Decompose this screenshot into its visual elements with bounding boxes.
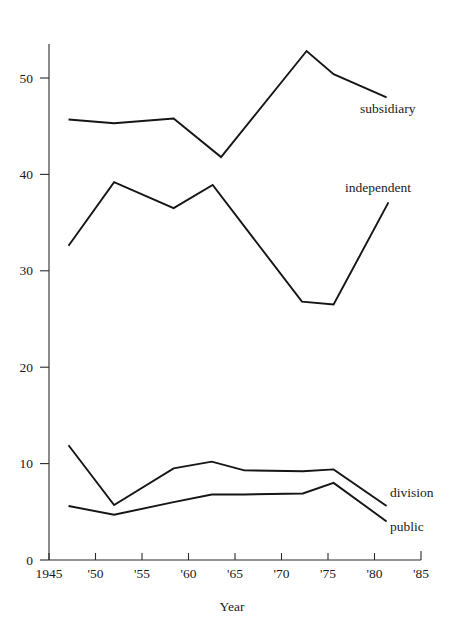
series-label-division: division <box>390 485 434 500</box>
x-tick-label-1945: 1945 <box>36 566 63 581</box>
series-label-group: subsidiaryindependentdivisionpublic <box>345 101 434 534</box>
y-tick-label-20: 20 <box>20 360 34 375</box>
x-tick-label-y60: '60 <box>181 566 197 581</box>
y-tick-label-0: 0 <box>26 553 33 568</box>
series-label-independent: independent <box>345 180 411 195</box>
y-tick-label-40: 40 <box>20 167 34 182</box>
x-tick-label-y80: '80 <box>367 566 383 581</box>
x-tick-label-y50: '50 <box>88 566 104 581</box>
series-line-division <box>69 445 387 506</box>
x-tick-label-y65: '65 <box>227 566 243 581</box>
y-tick-label-50: 50 <box>20 71 34 86</box>
y-tick-label-10: 10 <box>20 456 34 471</box>
chart-canvas: 01020304050 1945'50'55'60'65'70'75'80'85… <box>0 0 450 644</box>
series-line-public <box>69 483 387 522</box>
series-line-subsidiary <box>69 51 387 157</box>
series-group <box>69 51 389 521</box>
x-tick-label-y55: '55 <box>134 566 150 581</box>
y-tick-label-30: 30 <box>20 263 34 278</box>
series-label-public: public <box>390 519 424 534</box>
series-line-independent <box>69 182 389 304</box>
x-tick-label-y70: '70 <box>274 566 290 581</box>
x-tick-group: 1945'50'55'60'65'70'75'80'85 <box>36 551 430 581</box>
y-tick-group: 01020304050 <box>20 71 50 568</box>
series-label-subsidiary: subsidiary <box>360 101 416 116</box>
y-axis: 01020304050 <box>20 44 50 568</box>
x-axis-title: Year <box>220 599 245 614</box>
x-tick-label-y75: '75 <box>320 566 336 581</box>
x-axis: 1945'50'55'60'65'70'75'80'85 <box>36 551 430 581</box>
line-chart: 01020304050 1945'50'55'60'65'70'75'80'85… <box>0 0 450 644</box>
x-tick-label-y85: '85 <box>413 566 429 581</box>
